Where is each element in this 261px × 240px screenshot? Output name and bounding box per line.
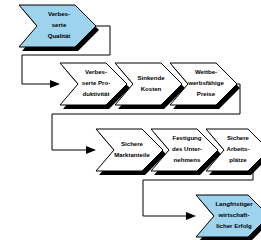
node-label-line-2: wirtschaft- (218, 211, 250, 218)
node-label-line-2: Arbeits- (226, 145, 249, 152)
node-label-line-1: Langfristiger (215, 200, 253, 207)
diagram-canvas: Verbes- serte Qualität Verbes- serte Pro… (0, 0, 261, 240)
node-label-line-2: serte Pro- (82, 79, 110, 86)
node-langfristiger-wirtschaftlicher-erfolg[interactable]: Langfristiger wirtschaft- licher Erfolg (196, 195, 261, 240)
node-label-line-1: Sinkende (137, 74, 165, 81)
node-label-line-3: plätze (229, 156, 247, 163)
node-label-line-2: Marktanteile (114, 151, 150, 158)
node-label-line-1: Wettbe- (195, 68, 217, 75)
node-label-line-3: Qualität (48, 32, 71, 39)
node-label-line-3: duktivität (82, 90, 109, 97)
arrowhead-row3 (186, 212, 196, 220)
node-label-line-2: Kosten (141, 85, 162, 92)
node-label-line-3: nehmens (174, 156, 201, 163)
node-label-line-1: Sichere (121, 140, 144, 147)
node-label-line-2: serte (52, 21, 67, 28)
node-label-line-1: Verbes- (85, 68, 107, 75)
arrowhead-row2 (86, 146, 96, 154)
node-label-line-1: Festigung (172, 134, 201, 141)
node-label-line-1: Sichere (227, 134, 250, 141)
node-label-line-3: Preise (197, 90, 216, 97)
node-label-line-1: Verbes- (48, 10, 70, 17)
arrowhead-row1 (50, 80, 60, 88)
node-label-line-3: licher Erfolg (216, 222, 252, 229)
node-label-line-2: werbsfähige (187, 79, 224, 86)
chevron-flow-diagram: Verbes- serte Qualität Verbes- serte Pro… (0, 0, 261, 240)
node-verbesserte-qualitaet[interactable]: Verbes- serte Qualität (19, 5, 99, 51)
node-label-line-2: des Unter- (172, 145, 202, 152)
